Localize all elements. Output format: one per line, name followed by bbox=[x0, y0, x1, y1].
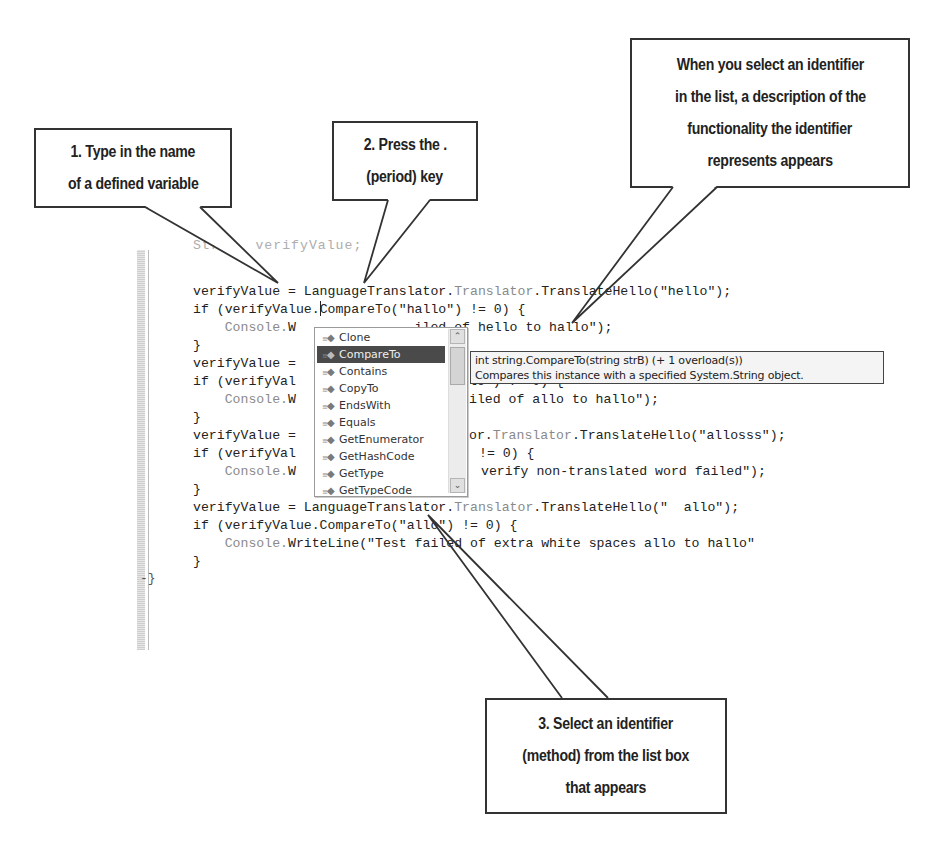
code-line: verifyValue =or.Translator.TranslateHell… bbox=[193, 427, 296, 445]
list-item[interactable]: ≡◆CopyTo bbox=[317, 380, 445, 397]
code-line: if (verifyValue.CompareTo("allo") != 0) … bbox=[193, 517, 517, 535]
code-line: } bbox=[193, 337, 201, 355]
list-item[interactable]: ≡◆GetEnumerator bbox=[317, 431, 445, 448]
code-line: Console.Wiled of allo to hallo"); bbox=[193, 391, 296, 409]
editor-gutter bbox=[137, 250, 145, 650]
code-line: } bbox=[193, 409, 201, 427]
callout-step-1: 1. Type in the name of a defined variabl… bbox=[34, 128, 232, 208]
code-line: if (verifyVallo") != 0) { bbox=[193, 373, 296, 391]
tooltip-description: Compares this instance with a specified … bbox=[475, 368, 879, 383]
closing-brace: -} bbox=[140, 571, 156, 586]
list-item-selected[interactable]: ≡◆CompareTo bbox=[317, 346, 445, 363]
quick-info-tooltip: int string.CompareTo(string strB) (+ 1 o… bbox=[470, 351, 884, 384]
code-text: Stri verifyValue; bbox=[193, 238, 362, 253]
scroll-down-icon[interactable]: ⌄ bbox=[450, 478, 465, 493]
code-line: verifyValue = LanguageTranslator.Transla… bbox=[193, 283, 731, 301]
code-line: verifyValue = LanguageTranslator.Transla… bbox=[193, 499, 739, 517]
scroll-up-icon[interactable]: ⌃ bbox=[450, 329, 465, 344]
code-line: Console.WriteLine("Test failed of extra … bbox=[193, 535, 755, 553]
code-editor[interactable]: Stri verifyValue; verifyValue = Language… bbox=[0, 0, 16, 270]
callout-description: When you select an identifier in the lis… bbox=[630, 38, 910, 188]
code-line: if (verifyVal!= 0) { bbox=[193, 445, 296, 463]
method-icon: ≡◆ bbox=[322, 482, 339, 495]
list-item[interactable]: ≡◆GetHashCode bbox=[317, 448, 445, 465]
list-scrollbar[interactable]: ⌃ ⌄ bbox=[448, 329, 466, 493]
code-line: } bbox=[193, 553, 201, 571]
scrollbar-thumb[interactable] bbox=[450, 347, 465, 385]
tooltip-signature: int string.CompareTo(string strB) (+ 1 o… bbox=[475, 353, 879, 368]
list-item[interactable]: ≡◆Contains bbox=[317, 363, 445, 380]
callout-step-2: 2. Press the . (period) key bbox=[332, 121, 478, 201]
gutter-divider bbox=[148, 250, 149, 650]
code-line: Console.Wverify non-translated word fail… bbox=[193, 463, 296, 481]
intellisense-list[interactable]: ≡◆Clone ≡◆CompareTo ≡◆Contains ≡◆CopyTo … bbox=[314, 327, 468, 497]
code-line: Stri verifyValue; bbox=[193, 237, 362, 255]
code-line: } bbox=[193, 481, 201, 499]
callout-step-3: 3. Select an identifier (method) from th… bbox=[485, 698, 727, 814]
list-item[interactable]: ≡◆GetTypeCode bbox=[317, 482, 445, 495]
code-line: verifyValue = bbox=[193, 355, 296, 373]
code-line: if (verifyValue.CompareTo("hallo") != 0)… bbox=[193, 301, 525, 319]
list-item[interactable]: ≡◆GetType bbox=[317, 465, 445, 482]
list-item[interactable]: ≡◆Clone bbox=[317, 329, 445, 346]
list-item[interactable]: ≡◆Equals bbox=[317, 414, 445, 431]
list-item[interactable]: ≡◆EndsWith bbox=[317, 397, 445, 414]
